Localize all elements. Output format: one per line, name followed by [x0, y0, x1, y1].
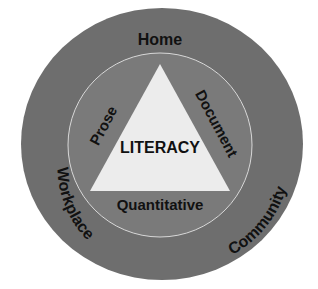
center-literacy-label: LITERACY: [120, 139, 200, 156]
literacy-diagram: Home LITERACY Prose Document Quantitativ…: [0, 0, 318, 289]
context-home-label: Home: [138, 31, 183, 48]
side-quantitative-label: Quantitative: [117, 196, 204, 213]
